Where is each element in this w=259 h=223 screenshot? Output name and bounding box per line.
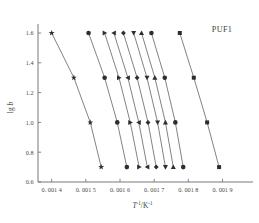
series-1-star-marker (87, 119, 93, 125)
series-2-circle-marker (102, 75, 107, 80)
series-8-circle-marker (181, 165, 186, 170)
y-tick-label: 1.6 (26, 29, 34, 36)
series-8-circle-marker (162, 75, 167, 80)
series-1-star-marker (49, 30, 55, 36)
series-5-diamond-marker (121, 31, 126, 36)
series-7-up-triangle-marker (171, 165, 176, 170)
x-tick-label: 0. 001 8 (178, 186, 198, 193)
series-9-square-marker (205, 120, 209, 124)
series-6-down-triangle-marker (144, 76, 149, 81)
series-9-square-marker (192, 76, 196, 80)
corner-label: PUF1 (212, 25, 232, 34)
series-8-circle-line (151, 33, 183, 167)
series-2-circle-marker (115, 120, 120, 125)
series-7-up-triangle-marker (139, 30, 144, 35)
series-1-star-marker (71, 75, 77, 81)
y-tick-label: 0.8 (26, 149, 34, 156)
y-tick-label: 1.4 (26, 59, 34, 66)
plot-series-layer (49, 30, 221, 170)
series-7-up-triangle-marker (163, 120, 168, 125)
series-6-down-triangle-marker (155, 120, 160, 125)
x-tick-label: 0. 001 7 (144, 186, 164, 193)
arrhenius-scatter-plot: 0. 001 40. 001 50. 001 60. 001 70. 001 8… (0, 0, 259, 223)
series-4-left-triangle-marker (111, 31, 116, 36)
series-3-right-triangle-marker (137, 165, 142, 170)
series-9-square-marker (178, 31, 182, 35)
series-3-right-triangle-line (105, 33, 140, 167)
y-tick-label: 1.2 (26, 89, 34, 96)
series-1-star-line (52, 33, 102, 167)
series-2-circle-marker (125, 165, 130, 170)
series-9-square-marker (217, 165, 221, 169)
series-8-circle (149, 31, 185, 170)
chart-container: 0. 001 40. 001 50. 001 60. 001 70. 001 8… (0, 0, 259, 223)
x-tick-label: 0. 001 6 (110, 186, 130, 193)
series-8-circle-marker (173, 120, 178, 125)
series-6-down-triangle-line (134, 33, 166, 167)
series-6-down-triangle (131, 31, 168, 170)
series-5-diamond-marker (154, 165, 159, 170)
y-tick-label: 0.6 (26, 178, 34, 185)
series-6-down-triangle-marker (163, 165, 168, 170)
series-5-diamond-marker (146, 120, 151, 125)
x-tick-label: 0. 001 5 (76, 186, 96, 193)
series-2-circle (86, 31, 129, 170)
series-1-star (49, 30, 104, 170)
series-4-left-triangle (111, 31, 149, 170)
series-9-square (178, 31, 221, 169)
x-tick-label: 0. 001 4 (42, 186, 62, 193)
y-tick-label: 1.0 (26, 119, 34, 126)
series-5-diamond-marker (135, 75, 140, 80)
series-5-diamond (121, 31, 159, 170)
series-1-star-marker (98, 164, 104, 170)
series-2-circle-line (89, 33, 127, 167)
series-8-circle-marker (149, 31, 154, 36)
series-6-down-triangle-marker (131, 31, 136, 36)
x-axis-title: T-1/K-1 (132, 200, 153, 210)
x-tick-label: 0. 001 9 (212, 186, 232, 193)
series-9-square-line (180, 33, 219, 167)
y-axis-title: lg b (6, 102, 15, 114)
series-3-right-triangle (103, 31, 142, 170)
series-7-up-triangle-marker (152, 75, 157, 80)
series-2-circle-marker (86, 31, 91, 36)
